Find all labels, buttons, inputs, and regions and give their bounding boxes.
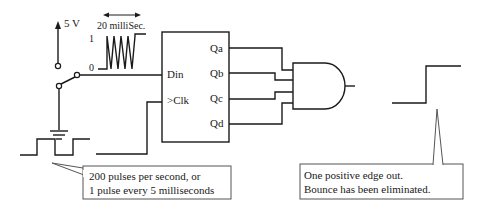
bounce-waveform: 20 milliSec. 1 0 bbox=[89, 13, 146, 74]
shift-register: Din >Clk Qa Qb Qc Qd bbox=[162, 32, 229, 142]
qb-label: Qb bbox=[210, 67, 224, 79]
q-wires bbox=[229, 48, 293, 124]
switch-contact-common bbox=[74, 72, 79, 77]
qd-label: Qd bbox=[210, 117, 224, 129]
output-callout-line2: Bounce has been eliminated. bbox=[304, 183, 431, 195]
arrow-right-icon bbox=[135, 13, 141, 18]
arrow-left-icon bbox=[103, 13, 109, 18]
high-label: 1 bbox=[89, 33, 94, 44]
spdt-switch bbox=[56, 72, 162, 130]
low-label: 0 bbox=[89, 62, 94, 73]
clk-label: >Clk bbox=[167, 94, 190, 106]
switch-contact-bottom bbox=[56, 83, 61, 88]
clock-callout: 200 pulses per second, or 1 pulse every … bbox=[52, 163, 231, 199]
qa-label: Qa bbox=[210, 42, 223, 54]
output-callout: One positive edge out. Bounce has been e… bbox=[300, 109, 463, 199]
supply-label: 5 V bbox=[64, 17, 80, 29]
switch-contact-top bbox=[55, 63, 60, 68]
arrow-up-icon bbox=[55, 21, 61, 29]
output-waveform bbox=[392, 66, 461, 103]
switch-blade bbox=[61, 77, 75, 84]
ground-icon bbox=[50, 131, 68, 139]
qc-label: Qc bbox=[210, 92, 223, 104]
clock-callout-line1: 200 pulses per second, or bbox=[89, 170, 201, 182]
supply-5v: 5 V bbox=[55, 17, 80, 69]
output-callout-line1: One positive edge out. bbox=[304, 169, 403, 181]
and-gate bbox=[293, 63, 355, 109]
din-label: Din bbox=[167, 68, 184, 80]
clk-wire bbox=[96, 102, 162, 154]
clock-waveform bbox=[20, 139, 90, 155]
debounce-diagram: 5 V 20 milliSec. 1 0 Din >Clk Qa Qb bbox=[0, 0, 480, 219]
clock-callout-line2: 1 pulse every 5 milliseconds bbox=[89, 184, 214, 196]
duration-label: 20 milliSec. bbox=[97, 20, 145, 31]
